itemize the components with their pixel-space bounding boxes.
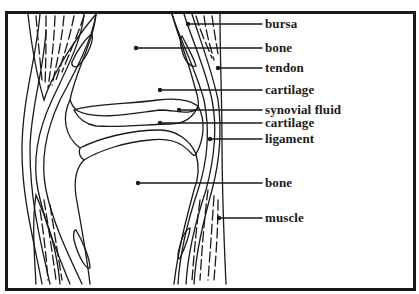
synovial-joint-illustration (0, 0, 419, 294)
left-lower-muscle (34, 195, 62, 284)
label-cartilage-lower: cartilage (265, 116, 314, 129)
label-cartilage-upper: cartilage (265, 83, 314, 96)
upper-bone (70, 14, 199, 116)
label-bone-lower: bone (265, 176, 292, 189)
lower-cartilage (79, 130, 196, 160)
label-tendon: tendon (265, 61, 304, 74)
label-ligament: ligament (265, 132, 314, 145)
label-bursa: bursa (265, 17, 297, 30)
label-muscle: muscle (265, 211, 304, 224)
label-bone-upper: bone (265, 41, 292, 54)
